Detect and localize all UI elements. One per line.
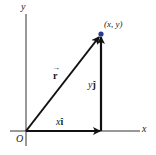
xi-vector-label: xî (56, 117, 63, 127)
y-axis-label: y (21, 2, 25, 12)
yj-unit: ĵ (92, 79, 95, 90)
vector-arrow-accent: → (52, 64, 60, 72)
diagram-canvas (0, 0, 156, 155)
yj-vector-label: yĵ (88, 80, 96, 90)
xi-unit: î (60, 116, 63, 127)
r-vector-label: → r (53, 71, 57, 81)
point-label: (x, y) (104, 20, 122, 29)
origin-label: O (16, 134, 23, 144)
x-axis-label: x (142, 124, 146, 134)
point-marker (98, 31, 103, 36)
